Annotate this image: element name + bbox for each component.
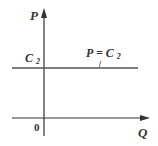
x-axis-arrow-icon	[140, 115, 150, 121]
svg-text:C 2: C 2	[25, 51, 40, 66]
y-axis: P	[30, 8, 47, 136]
origin-label: 0	[34, 121, 40, 133]
y-axis-arrow-icon	[41, 8, 47, 18]
intercept-label: C 2	[25, 51, 40, 66]
x-axis-label: Q	[138, 125, 148, 140]
line-equation-sub: 2	[116, 52, 121, 61]
line-equation-main: P = C	[86, 46, 115, 60]
line-equation-annotation: P = C 2	[86, 46, 121, 68]
x-axis: Q	[12, 115, 150, 140]
leader-line-icon	[100, 61, 102, 68]
intercept-label-main: C	[25, 51, 34, 65]
y-axis-label: P	[30, 8, 39, 23]
svg-text:P = C 2: P = C 2	[86, 46, 121, 61]
intercept-label-sub: 2	[35, 57, 40, 66]
price-quantity-chart: P Q 0 C 2 P = C 2	[0, 0, 158, 146]
